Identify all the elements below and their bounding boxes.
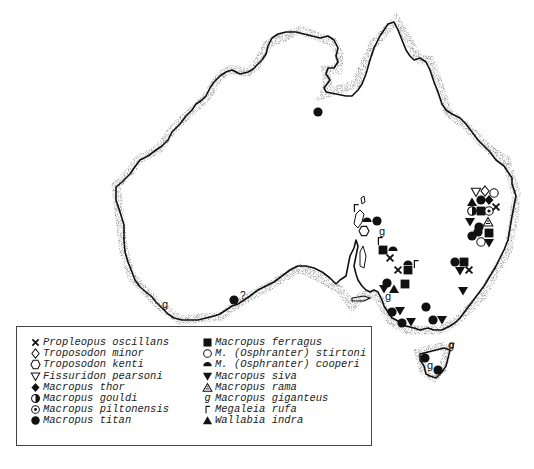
circle-open-marker-icon — [490, 189, 498, 197]
circle-filled-marker-icon — [397, 318, 406, 327]
legend-column-left: Propleopus oscillansTroposodon minorTrop… — [30, 337, 169, 427]
corner-glyph-marker-icon — [354, 205, 358, 212]
circle-filled-marker-icon — [473, 227, 482, 236]
legend-box: Propleopus oscillansTroposodon minorTrop… — [16, 326, 372, 446]
circle-filled-marker-icon — [476, 195, 485, 204]
legend-item: Macropus titan — [30, 415, 169, 426]
lake-eyre — [354, 210, 364, 228]
lake-torrens — [360, 246, 366, 268]
legend-item: M. (Osphranter) cooperi — [202, 359, 366, 370]
square-filled-marker-icon — [404, 266, 413, 275]
hexagon-open-marker-icon — [359, 226, 369, 235]
circle-filled-marker-icon — [450, 257, 459, 266]
coastline-stipple — [116, 20, 516, 378]
x-cross-marker-icon — [395, 267, 402, 274]
circle-dot-icon — [30, 404, 41, 415]
triangle-down-filled-marker-icon — [458, 287, 468, 296]
triangle-up-filled-icon — [202, 415, 213, 426]
square-filled-icon — [202, 337, 213, 348]
square-filled-marker-icon — [477, 207, 486, 216]
circle-filled-marker-icon — [387, 307, 396, 316]
legend-item: Troposodon kenti — [30, 359, 169, 370]
triangle-down-open-marker-icon — [471, 188, 480, 196]
square-filled-marker-icon — [485, 229, 494, 238]
triangle-hatched-marker-icon — [483, 218, 493, 226]
circle-half-icon — [30, 393, 41, 404]
diamond-open-icon — [30, 348, 41, 359]
triangle-down-filled-marker-icon — [455, 267, 465, 276]
circle-filled-marker-icon — [313, 107, 322, 116]
semicircle-filled-marker-icon — [403, 260, 412, 265]
g-glyph-marker-icon — [385, 290, 391, 302]
mainland-coastline — [116, 22, 516, 330]
x-cross-marker-icon — [387, 255, 394, 262]
circle-open-marker-icon — [477, 238, 485, 246]
triangle-down-filled-icon — [202, 371, 213, 382]
legend-label: Troposodon kenti — [43, 359, 144, 370]
uncertain-locality-annotation: ? — [240, 290, 246, 301]
diamond-open-marker-icon — [481, 186, 489, 196]
semicircle-filled-marker-icon — [362, 217, 371, 222]
legend-label: M. (Osphranter) cooperi — [215, 359, 360, 370]
triangle-down-filled-marker-icon — [406, 318, 416, 327]
diamond-filled-icon — [30, 382, 41, 393]
square-filled-marker-icon — [460, 258, 469, 267]
triangle-up-filled-marker-icon — [467, 197, 477, 206]
circle-dot-marker-icon — [485, 207, 493, 215]
circle-filled-marker-icon — [421, 302, 430, 311]
g-glyph-marker-icon — [162, 298, 168, 310]
x-cross-icon — [30, 337, 41, 348]
circle-open-icon — [202, 348, 213, 359]
triangle-hatched-icon — [202, 382, 213, 393]
square-filled-marker-icon — [401, 280, 410, 289]
hexagon-open-icon — [30, 359, 41, 370]
legend-label: Fissuridon pearsoni — [43, 371, 163, 382]
g-glyph-marker-icon — [379, 225, 385, 237]
legend-label: Macropus siva — [215, 371, 297, 382]
circle-filled-marker-icon — [433, 365, 442, 374]
legend-label: Macropus titan — [43, 415, 131, 426]
g-glyph-icon — [202, 393, 213, 404]
corner-glyph-marker-icon — [414, 261, 418, 268]
triangle-down-open-icon — [30, 371, 41, 382]
legend-item: Wallabia indra — [202, 415, 366, 426]
corner-glyph-icon — [202, 404, 213, 415]
legend-column-right: Macropus ferragusM. (Osphranter) stirton… — [202, 337, 366, 427]
x-cross-marker-icon — [493, 204, 500, 211]
circle-half-marker-icon — [468, 207, 477, 216]
circle-filled-icon — [30, 415, 41, 426]
semicircle-filled-marker-icon — [388, 246, 397, 251]
legend-label: Wallabia indra — [215, 415, 303, 426]
small-lake — [361, 196, 365, 204]
corner-glyph-marker-icon — [378, 238, 382, 245]
circle-filled-marker-icon — [428, 315, 437, 324]
triangle-down-filled-marker-icon — [465, 218, 475, 227]
square-filled-marker-icon — [379, 246, 388, 255]
g-glyph-marker-icon — [427, 359, 433, 371]
circle-filled-marker-icon — [229, 295, 238, 304]
semicircle-filled-icon — [202, 359, 213, 370]
x-cross-marker-icon — [466, 267, 473, 274]
g-glyph-marker-icon — [448, 339, 454, 351]
